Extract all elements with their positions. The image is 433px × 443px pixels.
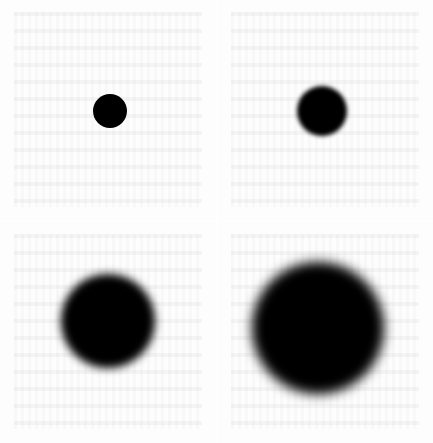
- panel-bottom-left: [0, 222, 216, 443]
- panel-top-left: [0, 0, 216, 221]
- dot-large-blurred: [61, 274, 155, 368]
- dot-largest-heavy-blur: [252, 262, 384, 394]
- dot-medium-slight-blur: [297, 86, 347, 136]
- panel-top-right: [217, 0, 433, 221]
- panel-bottom-right: [217, 222, 433, 443]
- dot-small-sharp: [93, 94, 127, 128]
